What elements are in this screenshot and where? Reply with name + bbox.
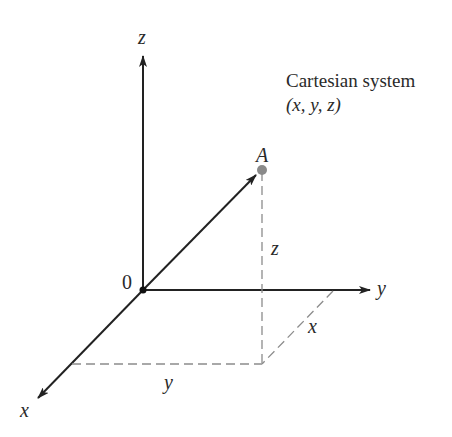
diagram-subtitle: (x, y, z) <box>286 95 341 114</box>
origin-marker <box>140 287 147 294</box>
projection-y-label: y <box>164 372 173 392</box>
x-axis <box>38 290 143 398</box>
diagram-canvas <box>0 0 452 437</box>
x-axis-label: x <box>20 400 29 420</box>
cartesian-diagram: z y x 0 A z x y Cartesian system (x, y, … <box>0 0 452 437</box>
origin-label: 0 <box>122 272 132 292</box>
projection-z-label: z <box>271 238 279 258</box>
diagram-title: Cartesian system <box>286 71 415 90</box>
point-a-marker <box>257 165 267 175</box>
position-vector <box>143 175 256 290</box>
projection-x-label: x <box>308 316 317 336</box>
z-axis-label: z <box>138 27 146 47</box>
y-axis-label: y <box>377 278 386 298</box>
point-a-label: A <box>256 145 268 165</box>
projection-x-dashed <box>262 291 333 364</box>
